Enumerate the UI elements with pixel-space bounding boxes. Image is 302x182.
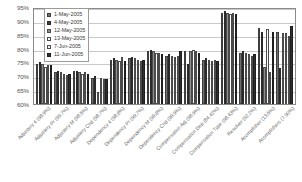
x-axis-tick: [248, 104, 249, 105]
x-axis-tick: [63, 104, 64, 105]
bar: [235, 14, 237, 104]
bar: [124, 61, 126, 104]
legend-swatch-icon: [47, 53, 51, 57]
x-axis-tick: [174, 104, 175, 105]
x-axis-tick: [285, 104, 286, 105]
x-axis-tick: [211, 104, 212, 105]
bar-group: [165, 9, 184, 104]
bar-group: [146, 9, 165, 104]
bar-group: [183, 9, 202, 104]
x-axis-tick: [100, 104, 101, 105]
chart-legend: 1-May-20054-May-200512-May-200513-May-20…: [44, 8, 89, 62]
bar: [272, 32, 274, 104]
x-axis-tick: [192, 104, 193, 105]
x-axis-tick: [266, 104, 267, 105]
x-axis-labels: Adjustery 4 (98.9%)Adjustery Pr (99.7%)A…: [33, 106, 296, 182]
legend-label: 1-May-2005: [54, 12, 82, 17]
bar-group: [202, 9, 221, 104]
legend-swatch-icon: [47, 29, 51, 33]
y-axis-tick-label: 65%: [17, 88, 29, 94]
x-axis-tick: [229, 104, 230, 105]
legend-item[interactable]: 4-May-2005: [47, 19, 85, 27]
bar: [290, 26, 292, 104]
legend-swatch-icon: [47, 45, 51, 49]
x-axis-tick: [155, 104, 156, 105]
legend-label: 4-May-2005: [54, 20, 82, 25]
bar: [68, 74, 70, 104]
bar: [142, 60, 144, 104]
y-axis-tick-label: 95%: [17, 5, 29, 11]
legend-label: 13-May-2005: [54, 36, 85, 41]
legend-label: 7-Jun-2005: [54, 44, 81, 49]
bar-group: [91, 9, 110, 104]
legend-item[interactable]: 13-May-2005: [47, 35, 85, 43]
legend-item[interactable]: 11-Jun-2005: [47, 51, 85, 59]
x-axis-tick: [137, 104, 138, 105]
legend-swatch-icon: [47, 13, 51, 17]
bar-group: [220, 9, 239, 104]
legend-swatch-icon: [47, 21, 51, 25]
bar: [50, 65, 52, 104]
bar-group: [276, 9, 295, 104]
bar-group: [109, 9, 128, 104]
bar-group: [128, 9, 147, 104]
y-axis-tick-label: 70%: [17, 74, 29, 80]
legend-item[interactable]: 12-May-2005: [47, 27, 85, 35]
legend-item[interactable]: 7-Jun-2005: [47, 43, 85, 51]
y-axis-tick-label: 90%: [17, 19, 29, 25]
y-axis-tick-label: 60%: [17, 102, 29, 108]
x-axis-tick: [118, 104, 119, 105]
legend-swatch-icon: [47, 37, 51, 41]
bar: [179, 51, 181, 104]
y-axis-labels: 95%90%85%80%75%70%65%60%: [0, 8, 31, 105]
bar: [198, 53, 200, 104]
bar-group: [239, 9, 258, 104]
bar-group: [257, 9, 276, 104]
bar: [105, 79, 107, 104]
x-axis-category-label: Acomplishers (7.90%): [257, 106, 295, 144]
legend-label: 12-May-2005: [54, 28, 85, 33]
bar: [216, 61, 218, 104]
y-axis-tick-label: 75%: [17, 60, 29, 66]
legend-label: 11-Jun-2005: [54, 52, 83, 57]
x-axis-tick: [44, 104, 45, 105]
bar: [161, 54, 163, 104]
x-axis-tick: [81, 104, 82, 105]
bar: [253, 54, 255, 104]
y-axis-tick-label: 80%: [17, 46, 29, 52]
y-axis-tick-label: 85%: [17, 33, 29, 39]
bar-chart: 95%90%85%80%75%70%65%60% Adjustery 4 (98…: [0, 0, 302, 182]
bar: [87, 74, 89, 104]
legend-item[interactable]: 1-May-2005: [47, 11, 85, 19]
